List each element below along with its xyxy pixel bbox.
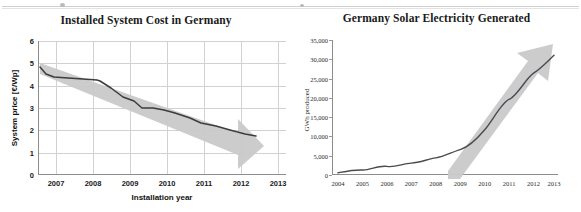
- growth-arrow-band-right: [448, 44, 553, 179]
- chart-panel-solar-electricity: Germany Solar Electricity Generated GWh …: [292, 0, 581, 212]
- plot-area-left: 6 5 4 3 2 1 0 2007 2008 2009 2010 2011 2…: [38, 41, 286, 175]
- y-tick-label: 1: [30, 148, 34, 157]
- x-axis-label-left: Installation year: [38, 193, 286, 202]
- series-overlay-right: [332, 40, 572, 180]
- y-tick-label: 15,000: [310, 114, 328, 121]
- x-tick-label: 2004: [332, 180, 345, 187]
- y-tick-label: 30,000: [310, 56, 328, 63]
- y-tick-label: 6: [30, 37, 34, 46]
- y-axis-label-left: System price [€/Wp]: [9, 41, 21, 175]
- x-tick-label: 2011: [503, 180, 516, 187]
- figure-canvas: Installed System Cost in Germany System …: [0, 0, 581, 212]
- chart-title-right: Germany Solar Electricity Generated: [292, 12, 581, 24]
- chart-panel-installed-system-cost: Installed System Cost in Germany System …: [0, 0, 292, 212]
- x-tick-label: 2005: [356, 180, 369, 187]
- x-tick-label: 2009: [454, 180, 467, 187]
- x-tick-label: 2008: [429, 180, 442, 187]
- y-tick-label: 35,000: [310, 37, 328, 44]
- y-tick-label: 0: [30, 171, 34, 180]
- y-tick-label: 10,000: [310, 133, 328, 140]
- chart-title-left: Installed System Cost in Germany: [0, 14, 292, 26]
- y-tick-label: 20,000: [310, 94, 328, 101]
- x-tick-label: 2013: [548, 180, 561, 187]
- x-tick-label: 2012: [527, 180, 540, 187]
- y-tick-label: 5,000: [313, 152, 328, 159]
- y-tick-label: 5: [30, 59, 34, 68]
- y-tick-label: 0: [325, 172, 328, 179]
- y-tick-label: 4: [30, 81, 34, 90]
- x-tick-label: 2006: [380, 180, 393, 187]
- y-tick-label: 3: [30, 104, 34, 113]
- x-tick-label: 2010: [478, 180, 491, 187]
- y-tick-label: 2: [30, 126, 34, 135]
- plot-area-right: 35,000 30,000 25,000 20,000 15,000 10,00…: [332, 40, 558, 175]
- x-tick-label: 2007: [405, 180, 418, 187]
- series-overlay-left: [38, 41, 298, 181]
- y-tick-label: 25,000: [310, 75, 328, 82]
